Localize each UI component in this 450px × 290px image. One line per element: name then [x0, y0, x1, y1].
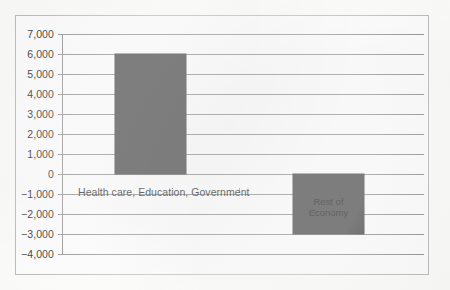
bar-label-health-care-education-government: Health care, Education, Government — [78, 186, 250, 198]
bar-health-care-education-government[interactable] — [115, 54, 186, 174]
y-tick-label-3000: 3,000 — [2, 109, 54, 119]
tick-2000 — [58, 134, 62, 135]
y-tick-label-5000: 5,000 — [2, 69, 54, 79]
value-axis-line — [62, 34, 63, 254]
bar-label-rest-of-economy: Rest of Economy — [293, 196, 364, 218]
gridline-minus-3000 — [62, 234, 424, 235]
y-tick-label-0: 0 — [2, 169, 54, 179]
bar-label-rest-of-economy-line1: Rest of — [293, 196, 364, 207]
tick-4000 — [58, 94, 62, 95]
tick-minus-2000 — [58, 214, 62, 215]
gridline-minus-2000 — [62, 214, 424, 215]
bar-label-rest-of-economy-line2: Economy — [293, 207, 364, 218]
tick-5000 — [58, 74, 62, 75]
y-tick-label-minus-4000: −4,000 — [2, 249, 54, 259]
y-tick-label-4000: 4,000 — [2, 89, 54, 99]
tick-1000 — [58, 154, 62, 155]
gridline-minus-4000 — [62, 254, 424, 255]
y-tick-label-minus-2000: −2,000 — [2, 209, 54, 219]
gridline-0 — [62, 174, 424, 175]
tick-minus-1000 — [58, 194, 62, 195]
tick-6000 — [58, 54, 62, 55]
tick-3000 — [58, 114, 62, 115]
tick-minus-4000 — [58, 254, 62, 255]
gridline-7000 — [62, 34, 424, 35]
y-tick-label-7000: 7,000 — [2, 29, 54, 39]
y-tick-label-1000: 1,000 — [2, 149, 54, 159]
tick-0 — [58, 174, 62, 175]
bar-chart-plot-area: 7,000 6,000 5,000 4,000 3,000 2,000 1,00… — [0, 0, 450, 290]
y-tick-label-minus-1000: −1,000 — [2, 189, 54, 199]
tick-minus-3000 — [58, 234, 62, 235]
y-tick-label-minus-3000: −3,000 — [2, 229, 54, 239]
tick-7000 — [58, 34, 62, 35]
y-tick-label-6000: 6,000 — [2, 49, 54, 59]
y-tick-label-2000: 2,000 — [2, 129, 54, 139]
